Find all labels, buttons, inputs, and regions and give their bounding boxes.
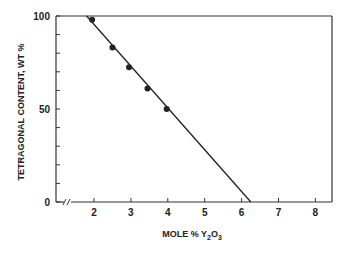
axis-break-icon	[63, 199, 70, 205]
x-tick-label: 8	[313, 207, 319, 218]
data-point	[164, 106, 170, 112]
y-tick-label: 50	[39, 104, 51, 115]
y-tick-label: 100	[33, 11, 50, 22]
y-axis-title: TETRAGONAL CONTENT, WT %	[16, 44, 26, 181]
x-tick-label: 7	[276, 207, 282, 218]
x-tick-label: 3	[128, 207, 134, 218]
x-tick-label: 2	[91, 207, 97, 218]
chart: 050100 2345678 TETRAGONAL CONTENT, WT % …	[0, 0, 350, 253]
data-points	[89, 17, 170, 112]
data-point	[109, 45, 115, 51]
x-tick-label: 4	[165, 207, 171, 218]
x-tick-label: 6	[239, 207, 245, 218]
x-axis-title: MOLE % Y2O3	[162, 229, 222, 241]
y-tick-label: 0	[44, 197, 50, 208]
plot-frame	[56, 16, 332, 202]
x-tick-label: 5	[202, 207, 208, 218]
data-point	[89, 17, 95, 23]
y-axis-tick-labels: 050100	[33, 11, 50, 208]
data-point	[126, 64, 132, 70]
x-axis-tick-labels: 2345678	[91, 207, 318, 218]
break-slash	[67, 199, 70, 205]
data-point	[145, 86, 151, 92]
